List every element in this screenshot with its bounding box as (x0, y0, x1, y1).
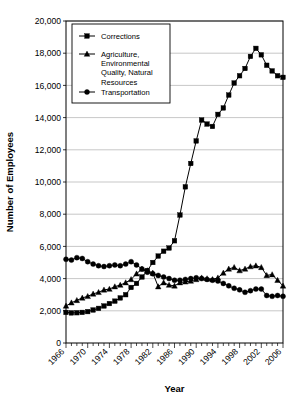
y-tick-label: 16,000 (35, 81, 62, 91)
y-tick-label: 4,000 (39, 274, 61, 284)
x-tick-label: 1978 (111, 346, 132, 367)
marker-square (129, 285, 134, 290)
marker-square (264, 63, 269, 68)
marker-triangle (96, 289, 102, 294)
legend-label: Resources (101, 78, 137, 87)
marker-circle (188, 276, 193, 281)
series-2 (63, 263, 286, 308)
x-tick-label: 1994 (198, 346, 219, 367)
marker-circle (134, 262, 139, 267)
marker-circle (183, 277, 188, 282)
marker-square (151, 260, 156, 265)
marker-square (91, 308, 96, 313)
marker-square (188, 161, 193, 166)
marker-square (123, 292, 128, 297)
chart-figure: 02,0004,0006,0008,00010,00012,00014,0001… (0, 0, 299, 401)
x-tick-label: 1966 (46, 346, 67, 367)
marker-circle (199, 276, 204, 281)
marker-square (167, 246, 172, 251)
marker-circle (264, 293, 269, 298)
legend-label: Environmental (101, 59, 150, 68)
marker-triangle (161, 280, 167, 285)
marker-square (118, 296, 123, 301)
y-tick-label: 20,000 (35, 16, 62, 26)
marker-circle (129, 259, 134, 264)
legend-label: Transportation (101, 88, 150, 97)
legend: CorrectionsAgriculture,EnvironmentalQual… (72, 24, 170, 103)
marker-circle (259, 287, 264, 292)
y-axis-title: Number of Employees (4, 132, 15, 232)
marker-circle (281, 294, 286, 299)
marker-triangle (74, 297, 80, 302)
marker-circle (253, 287, 258, 292)
marker-square (270, 69, 275, 74)
marker-square (243, 66, 248, 71)
marker-circle (74, 255, 79, 260)
marker-square (107, 301, 112, 306)
marker-triangle (85, 293, 91, 298)
marker-circle (107, 263, 112, 268)
marker-circle (237, 287, 242, 292)
marker-triangle (123, 280, 129, 285)
marker-square (205, 122, 210, 127)
marker-square (156, 254, 161, 259)
marker-circle (123, 262, 128, 267)
marker-circle (194, 275, 199, 280)
marker-square (221, 106, 226, 111)
marker-square (134, 281, 139, 286)
marker-circle (210, 278, 215, 283)
chart-canvas: 02,0004,0006,0008,00010,00012,00014,0001… (0, 0, 299, 401)
x-tick-label: 1970 (68, 346, 89, 367)
marker-circle (161, 274, 166, 279)
marker-circle (205, 277, 210, 282)
marker-square (178, 213, 183, 218)
marker-square (232, 81, 237, 86)
marker-circle (232, 286, 237, 291)
marker-square (237, 73, 242, 78)
y-tick-label: 14,000 (35, 113, 62, 123)
marker-circle (270, 294, 275, 299)
marker-circle (69, 258, 74, 263)
marker-square (64, 310, 69, 315)
marker-square (210, 124, 215, 129)
marker-circle (243, 290, 248, 295)
marker-circle (85, 259, 90, 264)
marker-square (194, 139, 199, 144)
marker-circle (80, 256, 85, 261)
marker-circle (248, 288, 253, 293)
x-tick-label: 2006 (263, 346, 284, 367)
marker-square (140, 275, 145, 280)
marker-circle (172, 278, 177, 283)
x-tick-label: 1982 (133, 346, 154, 367)
marker-circle (177, 278, 182, 283)
marker-square (275, 73, 280, 78)
marker-square (80, 310, 85, 315)
legend-label: Corrections (101, 32, 140, 41)
marker-square (102, 304, 107, 309)
x-tick-label: 1990 (176, 346, 197, 367)
y-tick-label: 8,000 (39, 209, 61, 219)
marker-triangle (117, 282, 123, 287)
y-tick-label: 10,000 (35, 177, 62, 187)
x-tick-label: 1974 (89, 346, 110, 367)
marker-circle (156, 273, 161, 278)
marker-triangle (107, 286, 113, 291)
marker-circle (215, 279, 220, 284)
marker-square (281, 75, 286, 80)
x-tick-label: 1986 (154, 346, 175, 367)
marker-circle (85, 90, 90, 95)
marker-circle (64, 257, 69, 262)
x-axis-title: Year (164, 383, 184, 394)
marker-circle (145, 270, 150, 275)
marker-triangle (166, 282, 172, 287)
legend-label: Quality, Natural (101, 68, 153, 77)
marker-square (96, 306, 101, 311)
marker-circle (118, 263, 123, 268)
marker-circle (167, 276, 172, 281)
marker-circle (91, 262, 96, 267)
marker-square (248, 54, 253, 59)
marker-square (226, 93, 231, 98)
marker-circle (101, 264, 106, 269)
marker-triangle (69, 300, 75, 305)
marker-square (216, 112, 221, 117)
